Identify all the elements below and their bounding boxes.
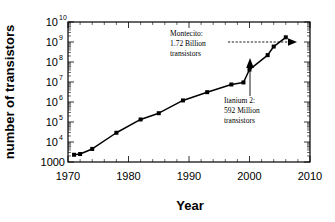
data-point (78, 152, 82, 156)
x-axis-title: Year (176, 198, 203, 213)
x-tick-label: 1970 (56, 170, 80, 182)
data-point (72, 153, 76, 157)
data-point (114, 131, 118, 135)
y-tick-label: 10 6 (46, 94, 63, 108)
x-tick-labels: 1970 1980 1990 2000 2010 (56, 170, 322, 182)
data-point (284, 35, 288, 39)
y-tick-exponent: 6 (59, 94, 63, 101)
y-tick-mantissa: 10 (46, 36, 58, 48)
y-tick-label: 10 5 (46, 114, 63, 128)
annotation-line: transistors (170, 49, 201, 58)
itanium2-arrowhead-icon (246, 58, 254, 68)
y-tick-mantissa: 10 (46, 136, 58, 148)
data-point (181, 98, 185, 102)
y-tick-mantissa: 10 (46, 76, 58, 88)
y-tick-mantissa: 1000 (41, 156, 65, 168)
y-tick-mantissa: 10 (46, 96, 58, 108)
data-point (266, 53, 270, 57)
y-tick-exponent: 8 (59, 54, 63, 61)
y-tick-exponent: 9 (59, 34, 63, 41)
data-point (90, 147, 94, 151)
x-tick-label: 2000 (237, 170, 261, 182)
data-point (157, 111, 161, 115)
y-tick-exponent: 7 (59, 74, 63, 81)
y-tick-label: 10 8 (46, 54, 63, 68)
transistor-count-chart: number of transistors Year 1000 10 4 10 … (0, 0, 335, 222)
y-tick-labels: 1000 10 4 10 5 10 6 10 7 10 8 (41, 14, 67, 168)
y-tick-label: 10 10 (46, 14, 67, 28)
y-tick-mantissa: 10 (46, 16, 58, 28)
montecito-arrowhead-icon (288, 38, 297, 46)
data-point (272, 45, 276, 49)
y-tick-mantissa: 10 (46, 56, 58, 68)
y-tick-exponent: 10 (59, 14, 67, 21)
y-tick-label: 10 4 (46, 134, 63, 148)
data-point (241, 80, 245, 84)
y-tick-label: 10 7 (46, 74, 63, 88)
x-tick-label: 1980 (116, 170, 140, 182)
data-point (248, 68, 252, 72)
annotation-line: Montecito: (170, 29, 203, 38)
x-tick-label: 1990 (177, 170, 201, 182)
data-point (205, 90, 209, 94)
y-tick-label: 1000 (41, 156, 65, 168)
data-point (139, 117, 143, 121)
annotation-itanium2: Itanium 2: 592 Million transistors (224, 58, 260, 125)
y-tick-label: 10 9 (46, 34, 63, 48)
annotation-line: Itanium 2: (224, 96, 255, 105)
annotation-line: 592 Million (224, 106, 260, 115)
y-axis-title: number of transistors (2, 25, 17, 159)
annotation-line: transistors (224, 116, 255, 125)
y-tick-exponent: 4 (59, 134, 63, 141)
y-axis-title-text: number of transistors (2, 25, 17, 159)
x-axis-title-text: Year (176, 198, 203, 213)
chart-canvas: number of transistors Year 1000 10 4 10 … (0, 0, 335, 222)
annotation-line: 1.72 Billion (170, 39, 206, 48)
y-tick-mantissa: 10 (46, 116, 58, 128)
data-point (229, 83, 233, 87)
x-tick-label: 2010 (298, 170, 322, 182)
y-tick-exponent: 5 (59, 114, 63, 121)
